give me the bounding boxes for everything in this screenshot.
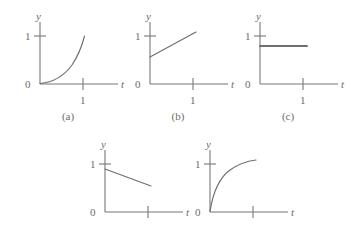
plot-panel-d: y t 1 0 <box>83 140 193 235</box>
origin-label-a: 0 <box>25 78 31 90</box>
x-axis-label-b: t <box>231 78 235 90</box>
y-axis-label-a: y <box>35 10 41 22</box>
y-tick-label-one-d: 1 <box>90 158 96 170</box>
x-tick-label-one-a: 1 <box>80 94 86 106</box>
panel-caption-b: (b) <box>158 110 198 122</box>
y-tick-label-one-b: 1 <box>135 30 141 42</box>
x-tick-label-one-b: 1 <box>190 94 196 106</box>
origin-label-d: 0 <box>90 206 96 218</box>
panel-caption-c: (c) <box>268 110 308 122</box>
y-tick-label-one-a: 1 <box>25 30 31 42</box>
y-axis-label-d: y <box>100 138 106 150</box>
figure-container: y t 1 0 1 (a) y t 1 0 1 (b) <box>0 0 350 245</box>
origin-label-e: 0 <box>195 206 201 218</box>
curve-b <box>150 32 196 57</box>
curve-d <box>105 169 151 186</box>
y-axis-label-e: y <box>205 138 211 150</box>
y-axis-label-c: y <box>255 10 261 22</box>
origin-label-b: 0 <box>135 78 141 90</box>
plot-panel-e: y t 1 0 <box>188 140 298 235</box>
x-axis-label-e: t <box>291 206 295 218</box>
origin-label-c: 0 <box>245 78 251 90</box>
plot-panel-a: y t 1 0 1 <box>18 12 128 107</box>
x-axis-label-a: t <box>121 78 125 90</box>
plot-panel-b: y t 1 0 1 <box>128 12 238 107</box>
y-axis-label-b: y <box>145 10 151 22</box>
y-tick-label-one-c: 1 <box>245 30 251 42</box>
curve-a <box>40 36 85 84</box>
x-tick-label-one-c: 1 <box>300 94 306 106</box>
x-axis-label-c: t <box>341 78 345 90</box>
y-tick-label-one-e: 1 <box>195 158 201 170</box>
plot-panel-c: y t 1 0 1 <box>238 12 348 107</box>
curve-e <box>210 160 256 212</box>
panel-caption-a: (a) <box>48 110 88 122</box>
